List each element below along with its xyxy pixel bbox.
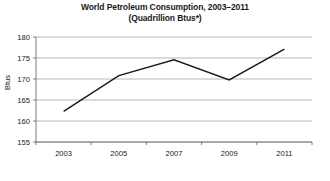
x-axis-tick-labels: 20032005200720092011 (55, 149, 292, 158)
y-axis-tick-labels: 180175170165160155 (17, 33, 30, 147)
y-tick-label: 155 (17, 138, 30, 147)
chart-container: World Petroleum Consumption, 2003–2011 (… (0, 0, 330, 181)
x-tick-label: 2009 (221, 149, 238, 158)
x-tick-label: 2007 (166, 149, 183, 158)
x-tick-label: 2003 (55, 149, 72, 158)
y-tick-label: 165 (17, 96, 30, 105)
y-tick-label: 180 (17, 33, 30, 42)
gridlines (33, 37, 312, 142)
x-tick-label: 2005 (110, 149, 127, 158)
y-tick-label: 160 (17, 117, 30, 126)
y-tick-label: 170 (17, 75, 30, 84)
y-tick-label: 175 (17, 54, 30, 63)
data-series-line (64, 49, 285, 111)
plot-area: 180175170165160155 20032005200720092011 (0, 0, 330, 181)
x-tick-label: 2011 (276, 149, 292, 158)
